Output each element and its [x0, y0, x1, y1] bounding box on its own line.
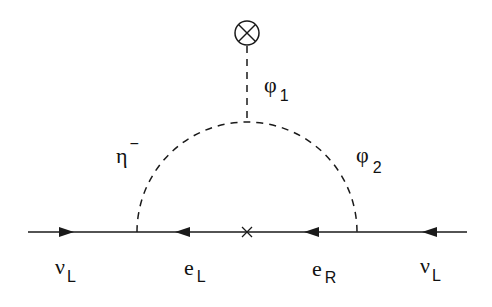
label-nu-L-right: νL: [420, 253, 441, 284]
feynman-diagram: φ1 η− φ2 νL eL eR νL: [0, 0, 492, 307]
label-phi2: φ2: [356, 142, 382, 176]
label-nu-L-left: νL: [55, 254, 76, 285]
label-phi1: φ1: [264, 72, 289, 104]
label-eta: η−: [116, 135, 139, 168]
label-e-R: eR: [312, 256, 336, 286]
arrow-right-icon: [59, 227, 74, 237]
vev-insertion-icon: [235, 21, 259, 45]
arrow-left-icon: [304, 227, 319, 237]
arrow-left-icon: [422, 227, 437, 237]
arrow-left-icon: [175, 227, 190, 237]
label-e-L: eL: [184, 255, 206, 285]
scalar-loop: [137, 122, 357, 232]
